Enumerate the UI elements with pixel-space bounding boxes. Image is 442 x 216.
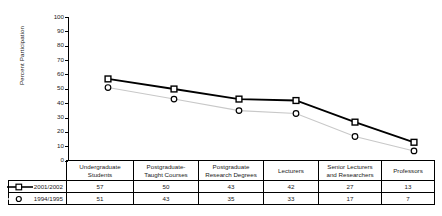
- table-header-undergraduate-students: Undergraduate Students: [67, 161, 134, 181]
- table-cell: 13: [382, 181, 435, 193]
- header-line-1: Professors: [393, 167, 423, 174]
- table-header-senior-lecturers-and-researchers: Senior Lecturers and Researchers: [319, 161, 382, 181]
- table-cell: 43: [199, 181, 264, 193]
- header-line-2: Research Degrees: [205, 171, 257, 178]
- table-cell: 42: [264, 181, 319, 193]
- data-point-2001-2002-4: [352, 119, 358, 125]
- header-line-2: and Researchers: [326, 171, 373, 178]
- series-line-1994-1995: [108, 88, 414, 151]
- header-line-1: Undergraduate: [79, 163, 120, 170]
- table-cell: 33: [264, 193, 319, 205]
- header-line-2: Students: [88, 171, 112, 178]
- data-table-wrapper: Undergraduate Students Postgraduate- Tau…: [8, 160, 434, 205]
- series-line-2001-2002: [108, 79, 414, 142]
- legend-marker-circle-icon: [7, 195, 33, 203]
- legend-marker-square-icon: [7, 183, 33, 191]
- series-lines: [0, 0, 442, 166]
- legend-label: 2001/2002: [34, 183, 63, 190]
- data-point-2001-2002-2: [236, 96, 242, 102]
- legend-item-2001-2002: 2001/2002: [9, 181, 67, 193]
- table-header-row: Undergraduate Students Postgraduate- Tau…: [9, 161, 435, 181]
- legend-label: 1994/1995: [34, 195, 63, 202]
- header-line-1: Senior Lecturers: [327, 163, 372, 170]
- plot-area: Percent Participation 100 90 80 70 60 50…: [0, 0, 442, 166]
- table-header-postgraduate-research-degrees: Postgraduate Research Degrees: [199, 161, 264, 181]
- header-line-1: Lecturers: [278, 167, 304, 174]
- header-line-1: Postgraduate: [213, 163, 250, 170]
- header-line-1: Postgraduate-: [147, 163, 186, 170]
- table-header-postgraduate-taught-courses: Postgraduate- Taught Courses: [134, 161, 199, 181]
- table-cell: 57: [67, 181, 134, 193]
- table-row: 1994/1995 51 43 35 33 17 7: [9, 193, 435, 205]
- data-point-1994-1995-4: [352, 134, 358, 140]
- table-header-professors: Professors: [382, 161, 435, 181]
- table-cell: 17: [319, 193, 382, 205]
- table-row: 2001/2002 57 50 43 42 27 13: [9, 181, 435, 193]
- data-point-2001-2002-5: [411, 139, 417, 145]
- table-cell: 43: [134, 193, 199, 205]
- table-cell: 51: [67, 193, 134, 205]
- data-table: Undergraduate Students Postgraduate- Tau…: [8, 160, 435, 205]
- table-cell: 7: [382, 193, 435, 205]
- legend-item-1994-1995: 1994/1995: [9, 193, 67, 205]
- chart-figure: Percent Participation 100 90 80 70 60 50…: [0, 0, 442, 216]
- table-header-lecturers: Lecturers: [264, 161, 319, 181]
- data-point-2001-2002-3: [293, 98, 299, 104]
- data-point-2001-2002-0: [105, 76, 111, 82]
- data-point-1994-1995-2: [236, 108, 242, 114]
- data-point-1994-1995-3: [293, 111, 299, 117]
- legend-header-spacer: [9, 161, 67, 181]
- header-line-2: Taught Courses: [144, 171, 187, 178]
- table-cell: 35: [199, 193, 264, 205]
- data-point-1994-1995-0: [105, 85, 111, 91]
- table-cell: 50: [134, 181, 199, 193]
- table-cell: 27: [319, 181, 382, 193]
- data-point-2001-2002-1: [171, 86, 177, 92]
- data-point-1994-1995-5: [411, 148, 417, 154]
- data-point-1994-1995-1: [171, 96, 177, 102]
